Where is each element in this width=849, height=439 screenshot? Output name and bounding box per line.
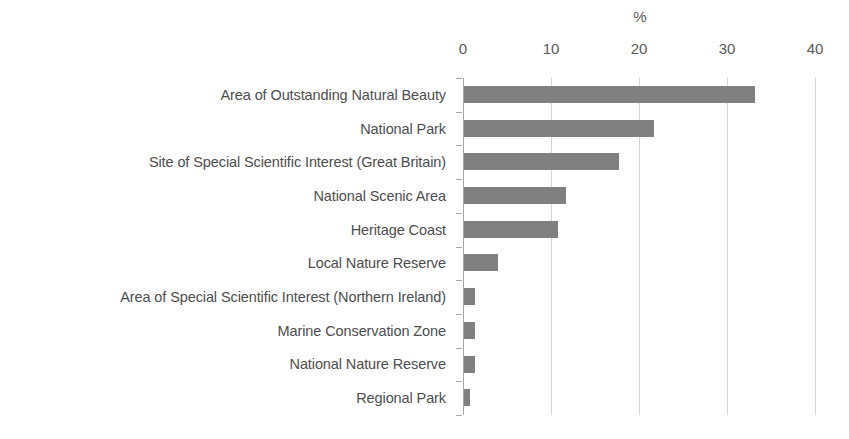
y-axis-tick-mark <box>456 348 462 349</box>
category-label-row: National Nature Reserve <box>0 348 455 382</box>
bar-chart: % 010203040 Area of Outstanding Natural … <box>0 0 849 439</box>
category-label-row: National Park <box>0 112 455 146</box>
category-label: Site of Special Scientific Interest (Gre… <box>149 154 446 170</box>
category-label: National Nature Reserve <box>290 356 446 372</box>
x-axis-tick-label: 0 <box>433 40 493 57</box>
y-axis-tick-mark <box>456 213 462 214</box>
category-label-row: Marine Conservation Zone <box>0 314 455 348</box>
bar-row <box>463 348 849 382</box>
bar-row <box>463 314 849 348</box>
bar <box>464 322 475 339</box>
y-axis-tick-mark <box>456 112 462 113</box>
category-label: Marine Conservation Zone <box>278 323 446 339</box>
x-axis-tick-labels: 010203040 <box>0 40 849 64</box>
bar <box>464 153 619 170</box>
y-axis-tick-mark <box>456 179 462 180</box>
y-axis-tick-mark <box>456 415 462 416</box>
bar <box>464 221 558 238</box>
category-label-row: Area of Outstanding Natural Beauty <box>0 78 455 112</box>
y-axis-tick-marks <box>456 78 463 415</box>
y-axis-tick-mark <box>456 280 462 281</box>
bar-row <box>463 112 849 146</box>
x-axis-tick-label: 10 <box>521 40 581 57</box>
category-label-row: Regional Park <box>0 381 455 415</box>
category-label: Area of Outstanding Natural Beauty <box>220 87 446 103</box>
category-label-row: Area of Special Scientific Interest (Nor… <box>0 280 455 314</box>
category-label: Local Nature Reserve <box>308 255 446 271</box>
y-axis-tick-mark <box>456 247 462 248</box>
y-axis-category-labels: Area of Outstanding Natural BeautyNation… <box>0 78 455 415</box>
category-label-row: National Scenic Area <box>0 179 455 213</box>
bar <box>464 254 498 271</box>
bar-row <box>463 213 849 247</box>
category-label: Regional Park <box>356 390 446 406</box>
x-axis-tick-label: 40 <box>785 40 845 57</box>
x-axis-tick-label: 20 <box>609 40 669 57</box>
bar-row <box>463 381 849 415</box>
x-axis-title: % <box>600 8 680 25</box>
bar-row <box>463 179 849 213</box>
y-axis-tick-mark <box>456 145 462 146</box>
bar-row <box>463 78 849 112</box>
bar <box>464 389 470 406</box>
category-label: Heritage Coast <box>351 222 446 238</box>
category-label: National Park <box>360 121 446 137</box>
bar <box>464 187 566 204</box>
x-axis-tick-label: 30 <box>697 40 757 57</box>
bar-row <box>463 246 849 280</box>
bar <box>464 86 755 103</box>
category-label-row: Local Nature Reserve <box>0 246 455 280</box>
y-axis-tick-mark <box>456 78 462 79</box>
y-axis-tick-mark <box>456 381 462 382</box>
bar <box>464 120 654 137</box>
category-label: National Scenic Area <box>313 188 446 204</box>
y-axis-tick-mark <box>456 314 462 315</box>
category-label-row: Heritage Coast <box>0 213 455 247</box>
bar-series <box>463 78 849 415</box>
category-label-row: Site of Special Scientific Interest (Gre… <box>0 145 455 179</box>
bar <box>464 356 475 373</box>
category-label: Area of Special Scientific Interest (Nor… <box>120 289 446 305</box>
bar-row <box>463 145 849 179</box>
bar-row <box>463 280 849 314</box>
bar <box>464 288 475 305</box>
